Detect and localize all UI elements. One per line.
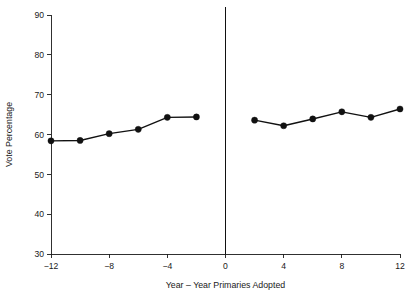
plot-canvas: 30405060708090−12−8−404812Year – Year Pr…	[0, 0, 413, 308]
data-point	[193, 114, 199, 120]
y-tick-label: 60	[34, 130, 44, 140]
data-point	[135, 126, 141, 132]
series-group	[48, 114, 200, 144]
x-tick-label: 8	[339, 261, 344, 271]
y-axis-title: Vote Percentage	[4, 102, 14, 167]
y-tick-label: 90	[34, 10, 44, 20]
data-point	[106, 131, 112, 137]
x-axis-title: Year – Year Primaries Adopted	[166, 280, 286, 290]
data-point	[281, 123, 287, 129]
x-tick-label: 4	[281, 261, 286, 271]
series-line-1	[255, 109, 400, 126]
y-tick-label: 80	[34, 50, 44, 60]
y-tick-label: 30	[34, 249, 44, 259]
data-point	[397, 106, 403, 112]
x-tick-label: −12	[44, 261, 59, 271]
series-line-0	[51, 117, 196, 141]
x-tick-label: 0	[223, 261, 228, 271]
data-point	[77, 137, 83, 143]
y-tick-label: 70	[34, 90, 44, 100]
y-tick-label: 40	[34, 209, 44, 219]
data-point	[310, 116, 316, 122]
x-tick-label: −4	[162, 261, 172, 271]
chart-figure: 30405060708090−12−8−404812Year – Year Pr…	[0, 0, 413, 308]
data-point	[339, 109, 345, 115]
series-group	[251, 106, 403, 129]
x-tick-label: −8	[104, 261, 114, 271]
data-point	[48, 138, 54, 144]
x-tick-label: 12	[395, 261, 405, 271]
data-point	[164, 114, 170, 120]
data-point	[368, 114, 374, 120]
data-point	[251, 117, 257, 123]
y-tick-label: 50	[34, 170, 44, 180]
